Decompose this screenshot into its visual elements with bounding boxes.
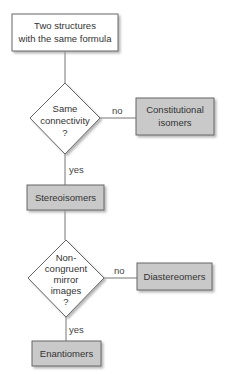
isomer-flowchart: no yes no yes Two structures with the sa… xyxy=(0,0,229,374)
start-text-line-1: Two structures xyxy=(34,20,96,31)
edge-label-yes-2: yes xyxy=(69,324,84,335)
decision2-text-line-1: Non- xyxy=(56,252,77,263)
stereoisomers-text: Stereoisomers xyxy=(35,192,96,203)
node-stereoisomers: Stereoisomers xyxy=(27,185,104,210)
decision2-text-line-2: congruent xyxy=(45,263,88,274)
node-start: Two structures with the same formula xyxy=(12,14,118,51)
node-decision-same-connectivity: Same connectivity ? xyxy=(30,83,100,154)
decision1-text-line-3: ? xyxy=(62,127,67,138)
node-decision-noncongruent-mirror-images: Non- congruent mirror images ? xyxy=(28,240,104,317)
node-constitutional-isomers: Constitutional isomers xyxy=(136,98,214,135)
edge-label-no-2: no xyxy=(114,265,125,276)
node-enantiomers: Enantiomers xyxy=(32,341,101,366)
decision2-text-line-3: mirror xyxy=(54,274,79,285)
decision1-text-line-2: connectivity xyxy=(40,115,90,126)
decision2-text-line-5: ? xyxy=(63,296,68,307)
constitutional-text-line-2: isomers xyxy=(158,117,192,128)
node-diastereomers: Diastereomers xyxy=(137,263,212,290)
decision2-text-line-4: images xyxy=(51,285,82,296)
enantiomers-text: Enantiomers xyxy=(40,348,94,359)
edge-label-yes-1: yes xyxy=(69,164,84,175)
edge-label-no-1: no xyxy=(112,105,123,116)
decision1-text-line-1: Same xyxy=(53,103,78,114)
constitutional-text-line-1: Constitutional xyxy=(146,104,204,115)
start-text-line-2: with the same formula xyxy=(18,33,113,44)
diastereomers-text: Diastereomers xyxy=(144,271,206,282)
